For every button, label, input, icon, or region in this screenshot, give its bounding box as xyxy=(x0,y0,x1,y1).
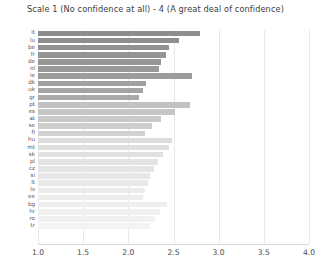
chart-page: Scale 1 (No confidence at all) - 4 (A gr… xyxy=(0,0,326,268)
bar-row: ie xyxy=(38,73,309,80)
y-axis-label: lu xyxy=(30,37,35,44)
y-axis-label: fr xyxy=(31,51,35,58)
y-axis-label: si xyxy=(31,172,35,179)
bar xyxy=(38,31,200,37)
y-axis-label: se xyxy=(29,122,35,129)
bar xyxy=(38,209,160,215)
y-axis-label: it xyxy=(31,29,35,36)
bar-row: de xyxy=(38,59,309,66)
bar-row: lv xyxy=(38,187,309,194)
bar-row: si xyxy=(38,173,309,180)
bar-row: mt xyxy=(38,144,309,151)
bar-row: hr xyxy=(38,208,309,215)
bar xyxy=(38,123,152,129)
chart-title: Scale 1 (No confidence at all) - 4 (A gr… xyxy=(27,4,284,14)
y-axis-label: tr xyxy=(31,222,36,229)
bar xyxy=(38,66,159,72)
x-axis-tick-label: 1.5 xyxy=(77,248,89,257)
bar-row: dk xyxy=(38,80,309,87)
y-axis-label: gr xyxy=(29,94,35,101)
bar-row: it xyxy=(38,30,309,37)
bar xyxy=(38,95,139,101)
bar xyxy=(38,216,155,222)
y-axis-label: sk xyxy=(29,151,35,158)
bar-row: lt xyxy=(38,180,309,187)
bar xyxy=(38,88,143,94)
bar-row: es xyxy=(38,108,309,115)
y-axis-label: nl xyxy=(30,65,35,72)
bar xyxy=(38,173,150,179)
y-axis-label: lt xyxy=(31,179,35,186)
x-axis-tick-label: 2.5 xyxy=(167,248,179,257)
bar-row: bg xyxy=(38,201,309,208)
x-axis-tick-label: 3.5 xyxy=(258,248,270,257)
bar xyxy=(38,116,161,122)
bar-row: uk xyxy=(38,87,309,94)
gridline xyxy=(309,30,310,244)
bar-row: tr xyxy=(38,223,309,230)
bar xyxy=(38,131,145,137)
x-axis-line xyxy=(38,244,309,245)
plot-area: itlubefrdenliedkukgrptesatsefihumtskplcz… xyxy=(38,30,309,244)
bar-row: se xyxy=(38,123,309,130)
x-axis-tick-label: 1.0 xyxy=(32,248,44,257)
bar xyxy=(38,145,169,151)
bar-row: at xyxy=(38,116,309,123)
y-axis-label: ro xyxy=(29,215,35,222)
bar xyxy=(38,180,148,186)
bar xyxy=(38,159,158,165)
y-axis-label: pl xyxy=(30,158,35,165)
bar xyxy=(38,59,161,65)
y-axis-label: uk xyxy=(28,86,35,93)
bar-row: hu xyxy=(38,137,309,144)
y-axis-label: pt xyxy=(29,101,35,108)
bar xyxy=(38,45,169,51)
y-axis-label: hu xyxy=(28,136,35,143)
bar-row: gr xyxy=(38,94,309,101)
bar xyxy=(38,202,167,208)
bar-row: nl xyxy=(38,66,309,73)
bar xyxy=(38,109,175,115)
y-axis-label: ee xyxy=(28,193,35,200)
bar xyxy=(38,188,145,194)
y-axis-label: lv xyxy=(30,186,35,193)
bar xyxy=(38,81,146,87)
y-axis-label: es xyxy=(29,108,35,115)
bar xyxy=(38,73,192,79)
bar xyxy=(38,38,179,44)
y-axis-label: mt xyxy=(27,144,35,151)
bar xyxy=(38,102,190,108)
bar xyxy=(38,166,154,172)
y-axis-label: bg xyxy=(28,201,35,208)
bar-row: ro xyxy=(38,215,309,222)
bar-row: sk xyxy=(38,151,309,158)
bar-row: be xyxy=(38,44,309,51)
bar-row: fi xyxy=(38,130,309,137)
y-axis-label: cz xyxy=(29,165,35,172)
bar xyxy=(38,152,163,158)
bar xyxy=(38,223,150,229)
bar-row: cz xyxy=(38,166,309,173)
bar-row: pt xyxy=(38,101,309,108)
y-axis-label: fi xyxy=(31,129,35,136)
y-axis-label: dk xyxy=(28,79,35,86)
y-axis-label: be xyxy=(28,44,35,51)
y-axis-label: de xyxy=(28,58,35,65)
x-axis-tick-label: 4.0 xyxy=(303,248,315,257)
bar xyxy=(38,195,143,201)
y-axis-label: at xyxy=(29,115,35,122)
bar-row: pl xyxy=(38,158,309,165)
bar xyxy=(38,52,166,58)
x-axis-tick-label: 2.0 xyxy=(122,248,134,257)
bar-row: ee xyxy=(38,194,309,201)
x-axis-tick-label: 3.0 xyxy=(213,248,225,257)
bar-row: lu xyxy=(38,37,309,44)
y-axis-label: ie xyxy=(30,72,35,79)
bar-row: fr xyxy=(38,51,309,58)
bar xyxy=(38,138,172,144)
y-axis-label: hr xyxy=(29,208,35,215)
